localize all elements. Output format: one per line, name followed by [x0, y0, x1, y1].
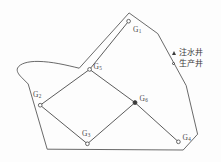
- connector-g5-g2: [40, 69, 89, 105]
- connector-g6-g5: [90, 69, 135, 102]
- well-connector-network: [40, 21, 178, 144]
- connector-g6-g4: [135, 103, 178, 142]
- well-marker-g3[interactable]: [86, 142, 90, 146]
- legend-item-producer: 生产井: [170, 58, 220, 69]
- well-markers: [38, 19, 180, 145]
- circle-hollow-icon: [170, 59, 179, 68]
- well-label-g4: G4: [183, 134, 191, 142]
- well-marker-g6[interactable]: [133, 101, 137, 105]
- connector-g2-g3: [40, 105, 87, 144]
- legend-label-injector: 注水井: [179, 49, 204, 57]
- field-boundary-path: [17, 13, 197, 150]
- oilfield-well-diagram: G1 G5 G2 G6 G3 G4 注水井 生产井: [0, 0, 221, 162]
- triangle-filled-icon: [170, 48, 179, 57]
- well-label-g1: G1: [133, 26, 141, 34]
- well-label-g2: G2: [33, 91, 41, 99]
- well-marker-g4[interactable]: [177, 140, 181, 144]
- well-marker-g5[interactable]: [88, 68, 92, 72]
- well-label-g6: G6: [140, 95, 148, 103]
- legend-label-producer: 生产井: [179, 60, 204, 68]
- well-marker-g2[interactable]: [38, 103, 42, 107]
- legend: 注水井 生产井: [170, 47, 220, 69]
- legend-item-injector: 注水井: [170, 47, 220, 58]
- well-label-g3: G3: [82, 130, 90, 138]
- well-label-g5: G5: [94, 63, 102, 71]
- connector-g3-g6: [87, 103, 135, 144]
- well-marker-g1[interactable]: [127, 19, 131, 23]
